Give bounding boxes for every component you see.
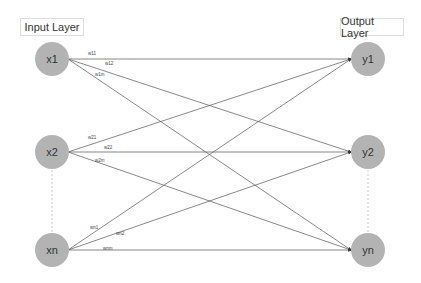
weight-label: wn1 (90, 225, 98, 230)
input-layer-label: Input Layer (20, 18, 84, 36)
input-node-xn: xn (35, 233, 69, 267)
weight-label: w12 (105, 61, 113, 66)
output-node-y2: y2 (351, 135, 385, 169)
weight-label: w21 (88, 135, 96, 140)
weight-label: w1m (95, 72, 105, 77)
weight-label: w11 (88, 51, 96, 56)
weight-label: wnm (103, 246, 113, 251)
output-node-y1: y1 (351, 42, 385, 76)
output-layer-label: Output Layer (340, 18, 404, 36)
weight-label: wn2 (116, 231, 124, 236)
input-node-x1: x1 (35, 42, 69, 76)
output-node-yn: yn (351, 233, 385, 267)
weight-label: w22 (104, 145, 112, 150)
neural-network-diagram: Input Layer Output Layer x1 x2 xn y1 y2 … (0, 0, 421, 283)
input-node-x2: x2 (35, 135, 69, 169)
weight-label: w2m (95, 158, 105, 163)
